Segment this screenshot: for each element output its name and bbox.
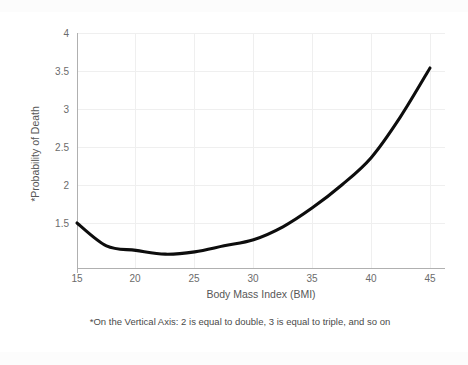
x-tick-label: 40 (365, 273, 377, 284)
vertical-gridlines (135, 33, 430, 268)
x-tick-label: 20 (129, 273, 141, 284)
x-axis-title: Body Mass Index (BMI) (206, 288, 315, 300)
y-tick-label: 2 (63, 180, 69, 191)
chart-footnote: *On the Vertical Axis: 2 is equal to dou… (90, 316, 391, 327)
y-tick-label: 1.5 (55, 218, 69, 229)
x-tick-label: 35 (306, 273, 318, 284)
x-tick-label: 15 (71, 273, 83, 284)
chart-canvas: 4 3.5 3 2.5 2 1.5 15 20 25 30 35 40 45 B… (0, 0, 468, 365)
horizontal-gridlines (77, 33, 445, 223)
y-tick-label: 3 (63, 104, 69, 115)
x-tick-label: 45 (424, 273, 436, 284)
y-tick-label: 3.5 (55, 66, 69, 77)
y-axis-tick-labels: 4 3.5 3 2.5 2 1.5 (55, 28, 69, 229)
x-tick-label: 30 (247, 273, 259, 284)
x-tick-label: 25 (188, 273, 200, 284)
y-tick-label: 2.5 (55, 142, 69, 153)
chart-figure: 4 3.5 3 2.5 2 1.5 15 20 25 30 35 40 45 B… (0, 0, 468, 365)
y-axis-title: *Probability of Death (29, 106, 41, 202)
x-axis-tick-labels: 15 20 25 30 35 40 45 (71, 273, 436, 284)
y-tick-label: 4 (63, 28, 69, 39)
